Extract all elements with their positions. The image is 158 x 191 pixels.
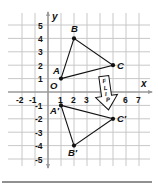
grid-lines xyxy=(8,13,150,166)
y-tick-label: 4 xyxy=(38,34,43,44)
vertex-point xyxy=(59,103,63,107)
x-axis-label: x xyxy=(140,78,147,89)
x-tick-label: 2 xyxy=(71,95,76,105)
x-tick-label: 3 xyxy=(84,95,89,105)
y-tick-label: 3 xyxy=(38,47,43,57)
y-tick-label: 1 xyxy=(38,74,43,84)
y-tick-label: 5 xyxy=(38,21,43,31)
coordinate-plane-diagram: yx -2-11236754321-1-2-3-4-5O ABC A′B′C′ … xyxy=(0,0,158,191)
vertex-point xyxy=(72,36,76,40)
x-tick-label: 6 xyxy=(123,95,128,105)
y-axis-arrow-icon xyxy=(46,164,50,169)
vertex-label: B xyxy=(71,23,78,34)
y-axis-arrow-icon xyxy=(46,11,50,16)
x-tick-label: -2 xyxy=(16,95,24,105)
y-tick-label: -3 xyxy=(35,128,43,138)
y-tick-label: -4 xyxy=(35,141,43,151)
vertex-label: B′ xyxy=(68,147,78,158)
y-tick-label: -2 xyxy=(35,114,43,124)
y-tick-label: -1 xyxy=(35,101,43,111)
x-tick-label: 7 xyxy=(136,95,141,105)
x-axis-arrow-icon xyxy=(148,90,153,94)
vertex-label: A′ xyxy=(49,105,60,116)
vertex-label: C′ xyxy=(117,113,127,124)
y-tick-label: 2 xyxy=(38,61,43,71)
y-tick-label: -5 xyxy=(35,155,43,165)
y-axis-label: y xyxy=(51,11,58,22)
vertex-label: C xyxy=(117,60,124,71)
origin-label: O xyxy=(50,80,58,91)
vertex-point xyxy=(111,63,115,67)
vertex-label: A xyxy=(52,65,60,76)
vertex-point xyxy=(59,77,63,81)
vertex-point xyxy=(111,117,115,121)
